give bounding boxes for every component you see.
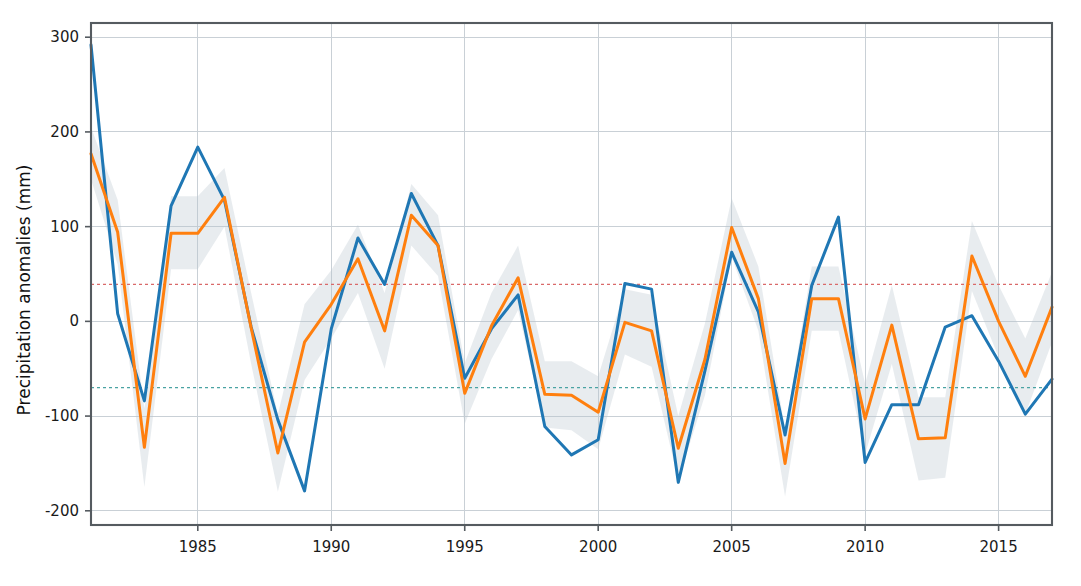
y-tick-label: -100 <box>45 407 79 425</box>
precipitation-anomalies-line-chart: 3002001000-100-2001985199019952000200520… <box>0 0 1081 586</box>
x-tick-label: 2000 <box>579 538 617 556</box>
y-tick-label: 300 <box>50 28 79 46</box>
x-tick-label: 1990 <box>312 538 350 556</box>
x-tick-label: 1985 <box>179 538 217 556</box>
x-tick-label: 2010 <box>846 538 884 556</box>
x-tick-label: 1995 <box>446 538 484 556</box>
x-tick-label: 2005 <box>713 538 751 556</box>
y-axis-title: Precipitation anomalies (mm) <box>14 165 34 416</box>
y-tick-label: 0 <box>69 312 79 330</box>
figure-container: 3002001000-100-2001985199019952000200520… <box>0 0 1081 586</box>
y-tick-label: 100 <box>50 218 79 236</box>
y-tick-label: -200 <box>45 502 79 520</box>
y-tick-label: 200 <box>50 123 79 141</box>
x-tick-label: 2015 <box>980 538 1018 556</box>
